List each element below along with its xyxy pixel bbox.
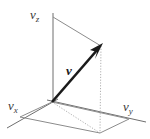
vector-diagram: vz vx vy v <box>0 0 150 139</box>
vector-label: v <box>66 63 72 78</box>
x-axis-label-subscript: x <box>13 105 18 115</box>
vector-diagram-canvas: vz vx vy v <box>0 0 150 139</box>
vector-arrow-group <box>52 43 103 102</box>
z-axis-label-subscript: z <box>35 14 40 24</box>
z-top-to-tip-guide <box>53 17 101 46</box>
tip-drop-line-guide <box>100 46 101 133</box>
z-axis-label: vz <box>30 7 40 24</box>
vector-arrow-shaft <box>52 49 98 102</box>
y-axis-label-subscript: y <box>128 106 133 116</box>
base-plane-group <box>20 102 129 133</box>
base-plane-parallelogram <box>20 102 129 133</box>
y-axis-label: vy <box>123 99 133 116</box>
x-axis-label: vx <box>8 98 18 115</box>
